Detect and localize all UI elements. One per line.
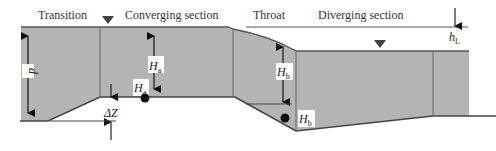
water-region-upstream xyxy=(21,27,233,121)
label-converging-section: Converging section xyxy=(125,8,218,22)
hl-label: hL xyxy=(449,30,460,46)
label-throat: Throat xyxy=(253,8,286,22)
label-diverging-section: Diverging section xyxy=(318,8,403,22)
label-transition: Transition xyxy=(38,8,87,22)
d-label: d xyxy=(26,68,40,75)
ha-gauge-point xyxy=(141,94,150,103)
water-region-diverging xyxy=(296,51,469,131)
hb-gauge-point xyxy=(281,114,290,123)
parshall-flume-diagram: Transition Converging section Throat Div… xyxy=(0,0,496,151)
water-surface-marker-upstream xyxy=(102,16,114,24)
delta-z-label: ΔZ xyxy=(103,106,118,120)
water-surface-marker-downstream xyxy=(374,40,386,48)
